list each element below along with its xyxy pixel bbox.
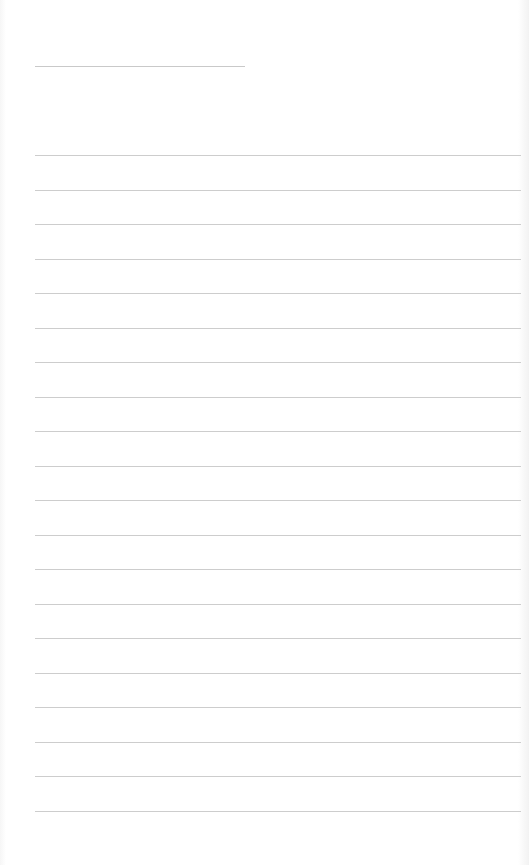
ruled-line — [35, 638, 521, 639]
ruled-line — [35, 673, 521, 674]
ruled-line — [35, 776, 521, 777]
ruled-line — [35, 224, 521, 225]
ruled-line — [35, 190, 521, 191]
ruled-line — [35, 397, 521, 398]
ruled-line — [35, 535, 521, 536]
ruled-line — [35, 811, 521, 812]
ruled-line — [35, 259, 521, 260]
ruled-line — [35, 155, 521, 156]
ruled-line — [35, 707, 521, 708]
ruled-line — [35, 742, 521, 743]
ruled-line — [35, 328, 521, 329]
ruled-line — [35, 604, 521, 605]
ruled-line — [35, 293, 521, 294]
ruled-line — [35, 569, 521, 570]
header-line — [35, 66, 245, 67]
ruled-line — [35, 500, 521, 501]
notepad-page — [0, 0, 529, 865]
ruled-line — [35, 362, 521, 363]
ruled-line — [35, 431, 521, 432]
ruled-line — [35, 466, 521, 467]
